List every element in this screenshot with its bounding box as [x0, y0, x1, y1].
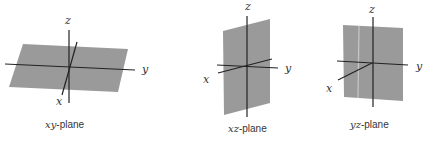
xy-x-label: x	[56, 95, 63, 108]
yz-x-label: x	[326, 82, 333, 95]
coordinate-planes-figure: z y x xy-plane z y x xz-plane z y x yz-p…	[0, 0, 428, 142]
yz-plane-caption: yz-plane	[349, 119, 389, 130]
xy-plane-caption: xy-plane	[45, 119, 85, 130]
xy-plane-panel: z y x xy-plane	[5, 14, 149, 130]
yz-y-label: y	[415, 60, 423, 73]
yz-plane-panel: z y x yz-plane	[326, 3, 423, 130]
xz-plane-panel: z y x xz-plane	[203, 0, 292, 134]
coordinate-planes-svg: z y x xy-plane z y x xz-plane z y x yz-p…	[0, 0, 428, 142]
xy-y-label: y	[141, 63, 149, 76]
yz-z-label: z	[368, 3, 375, 16]
xz-x-label: x	[203, 73, 210, 86]
xy-z-label: z	[64, 14, 71, 27]
xz-y-label: y	[284, 62, 292, 75]
xz-z-label: z	[244, 0, 251, 13]
xz-plane-caption: xz-plane	[228, 123, 267, 134]
